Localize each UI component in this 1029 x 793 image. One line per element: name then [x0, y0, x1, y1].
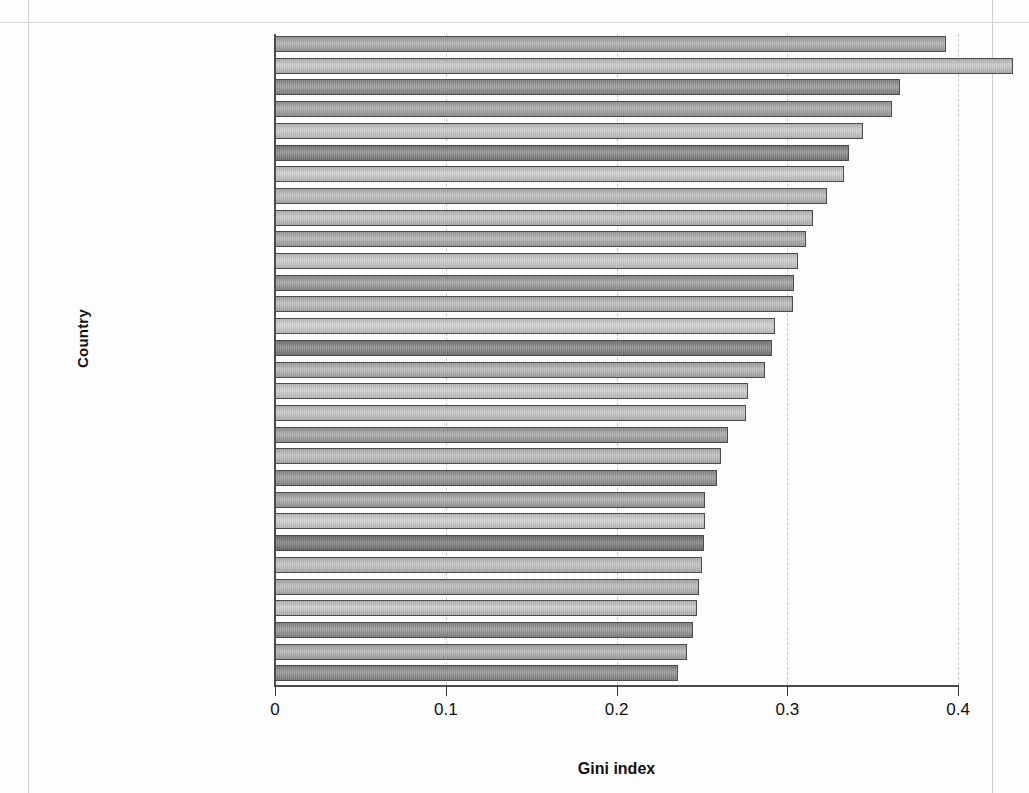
- bar-row: Israel: [0, 143, 1029, 165]
- bar-germany: [275, 492, 705, 508]
- bar-canada: [275, 275, 794, 291]
- bar-row: Romania: [0, 403, 1029, 425]
- bar-row: Canada: [0, 273, 1029, 295]
- bar-row: United States: [0, 77, 1029, 99]
- bar-row: Japan: [0, 208, 1029, 230]
- bar-sweden: [275, 513, 705, 529]
- bar-taiwan: [275, 383, 748, 399]
- bar-row: Spain: [0, 294, 1029, 316]
- bar-row: Czech Republic: [0, 468, 1029, 490]
- bar-row: Hungary: [0, 316, 1029, 338]
- bar-row: Germany: [0, 490, 1029, 512]
- page-scan-rule-top: [0, 22, 1029, 23]
- bar-row: Denmark: [0, 663, 1029, 685]
- bar-mexico: [275, 36, 946, 52]
- bar-row: Poland: [0, 338, 1029, 360]
- x-tick-label-0.4: 0.4: [946, 700, 970, 720]
- bar-row: Australia: [0, 229, 1029, 251]
- bar-japan: [275, 210, 813, 226]
- bar-row: Estonia: [0, 99, 1029, 121]
- bar-france: [275, 362, 765, 378]
- bar-row: Belgium: [0, 555, 1029, 577]
- bar-slovak-republic: [275, 644, 687, 660]
- gini-index-bar-chart-figure: Country Gini index 00.10.20.30.4MexicoRu…: [0, 0, 1029, 793]
- bar-united-kingdom: [275, 123, 863, 139]
- bar-row: United Kingdom: [0, 121, 1029, 143]
- x-tick-0.1: [446, 685, 447, 696]
- bar-netherlands: [275, 600, 697, 616]
- bar-estonia: [275, 101, 892, 117]
- bar-australia: [275, 231, 806, 247]
- bar-row: Russia: [0, 56, 1029, 78]
- bar-finland: [275, 622, 693, 638]
- bar-italy: [275, 166, 844, 182]
- x-axis-title: Gini index: [275, 760, 958, 778]
- bar-row: Slovak Republic: [0, 642, 1029, 664]
- x-tick-label-0.3: 0.3: [776, 700, 800, 720]
- x-tick-0.2: [617, 685, 618, 696]
- bar-luxembourg: [275, 448, 721, 464]
- bar-row: Mexico: [0, 34, 1029, 56]
- bar-czech-republic: [275, 470, 717, 486]
- bar-slovenia: [275, 579, 699, 595]
- x-tick-label-0.1: 0.1: [434, 700, 458, 720]
- bar-belgium: [275, 557, 702, 573]
- bar-ireland: [275, 188, 827, 204]
- bar-poland: [275, 340, 772, 356]
- bar-hungary: [275, 318, 775, 334]
- bar-denmark: [275, 665, 678, 681]
- bar-row: Netherlands: [0, 598, 1029, 620]
- x-tick-0.4: [958, 685, 959, 696]
- bar-row: Slovenia: [0, 577, 1029, 599]
- bar-row: Switzerland: [0, 251, 1029, 273]
- bar-united-states: [275, 79, 900, 95]
- bar-row: Norway: [0, 533, 1029, 555]
- bar-row: Italy: [0, 164, 1029, 186]
- bar-israel: [275, 145, 849, 161]
- bar-russia: [275, 58, 1013, 74]
- x-tick-0: [275, 685, 276, 696]
- bar-austria: [275, 427, 728, 443]
- bar-row: Ireland: [0, 186, 1029, 208]
- bar-romania: [275, 405, 746, 421]
- bar-row: Austria: [0, 425, 1029, 447]
- bar-row: France: [0, 360, 1029, 382]
- x-tick-label-0: 0: [270, 700, 279, 720]
- bar-switzerland: [275, 253, 798, 269]
- x-tick-0.3: [787, 685, 788, 696]
- bar-row: Finland: [0, 620, 1029, 642]
- bar-spain: [275, 296, 793, 312]
- bar-row: Luxembourg: [0, 446, 1029, 468]
- bar-row: Sweden: [0, 511, 1029, 533]
- bar-row: Taiwan: [0, 381, 1029, 403]
- x-tick-label-0.2: 0.2: [605, 700, 629, 720]
- bar-norway: [275, 535, 704, 551]
